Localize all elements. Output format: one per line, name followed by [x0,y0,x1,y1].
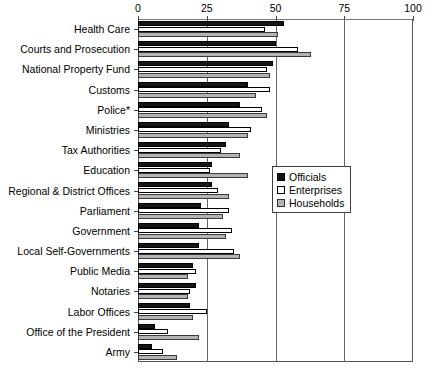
bar-enterprises [138,47,298,52]
x-tick-label-75: 75 [338,2,350,14]
bar-households [138,194,229,199]
x-tick-label-50: 50 [270,2,282,14]
legend-swatch-officials-icon [277,173,285,181]
bar-group [138,80,413,100]
bar-enterprises [138,329,168,334]
bar-chart: 0255075100 Health CareCourts and Prosecu… [0,0,432,382]
bar-households [138,52,311,57]
x-tick-label-25: 25 [201,2,213,14]
bar-households [138,335,199,340]
legend-label: Enterprises [289,184,342,196]
category-label: Labor Offices [68,306,130,318]
bar-households [138,173,248,178]
bar-officials [138,303,190,308]
bar-households [138,355,177,360]
bar-group [138,281,413,301]
category-label: Police* [97,104,130,116]
bar-enterprises [138,27,265,32]
bar-enterprises [138,269,196,274]
category-label: Local Self-Governments [17,245,130,257]
bar-group [138,120,413,140]
legend-item-households: Households [277,196,344,209]
bar-enterprises [138,148,221,153]
bar-households [138,274,188,279]
bar-officials [138,142,226,147]
bar-officials [138,283,196,288]
bar-enterprises [138,289,190,294]
bar-enterprises [138,228,232,233]
bar-enterprises [138,349,163,354]
bar-officials [138,263,193,268]
legend-item-officials: Officials [277,170,344,183]
category-label: Courts and Prosecution [20,43,130,55]
legend-label: Officials [289,171,326,183]
bar-enterprises [138,67,267,72]
legend-label: Households [289,197,344,209]
bar-enterprises [138,208,229,213]
bar-enterprises [138,107,262,112]
bar-enterprises [138,249,234,254]
bar-enterprises [138,127,251,132]
category-label: Army [106,346,131,358]
bar-group [138,100,413,120]
bar-officials [138,182,212,187]
legend-swatch-enterprises-icon [277,186,285,194]
bar-group [138,322,413,342]
bar-officials [138,203,201,208]
legend-item-enterprises: Enterprises [277,183,344,196]
category-label: Government [72,225,130,237]
bar-households [138,254,240,259]
bar-group [138,261,413,281]
category-label: Notaries [91,285,130,297]
category-label: Parliament [80,205,130,217]
bar-enterprises [138,168,210,173]
bar-officials [138,324,155,329]
bar-officials [138,344,152,349]
x-axis-tick-labels: 0255075100 [138,2,413,16]
chart-legend: OfficialsEnterprisesHouseholds [272,166,351,213]
bar-group [138,241,413,261]
bar-households [138,214,223,219]
bar-group [138,19,413,39]
bar-group [138,39,413,59]
bar-households [138,93,256,98]
bar-officials [138,61,273,66]
category-label: National Property Fund [22,63,130,75]
bar-officials [138,243,199,248]
category-label: Regional & District Offices [8,185,130,197]
bar-households [138,133,248,138]
y-axis-category-labels: Health CareCourts and ProsecutionNationa… [0,19,134,362]
legend-swatch-households-icon [277,199,285,207]
bar-officials [138,21,284,26]
bar-group [138,221,413,241]
category-label: Education [83,164,130,176]
category-label: Ministries [86,124,130,136]
x-tick-label-0: 0 [135,2,141,14]
bar-enterprises [138,188,218,193]
bar-households [138,294,188,299]
bar-households [138,113,267,118]
category-label: Public Media [70,265,130,277]
bar-officials [138,41,276,46]
bar-enterprises [138,87,270,92]
bar-households [138,153,240,158]
bar-households [138,315,193,320]
bar-households [138,32,278,37]
bar-officials [138,223,199,228]
category-label: Health Care [74,23,130,35]
bar-group [138,140,413,160]
bar-households [138,73,270,78]
bar-group [138,59,413,79]
bar-officials [138,82,248,87]
bar-enterprises [138,309,207,314]
bar-officials [138,102,240,107]
x-tick-label-100: 100 [404,2,422,14]
bar-officials [138,122,229,127]
category-label: Office of the President [26,326,130,338]
bar-group [138,342,413,362]
category-label: Customs [89,84,130,96]
category-label: Tax Authorities [62,144,130,156]
bar-group [138,301,413,321]
bar-households [138,234,226,239]
bar-officials [138,162,212,167]
